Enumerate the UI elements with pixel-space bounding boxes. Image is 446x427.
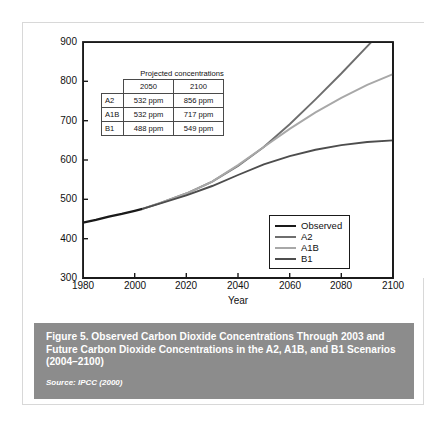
table-row: A2 532 ppm 856 ppm (102, 94, 224, 108)
legend-swatch-a2 (275, 236, 296, 238)
x-axis-title: Year (83, 295, 393, 306)
projected-concentrations-table: Projected concentrations 2050 2100 A2 53… (101, 69, 241, 136)
table-col-header-2100: 2100 (174, 80, 224, 94)
legend-item-a1b: A1B (275, 242, 342, 253)
legend-item-a2: A2 (275, 231, 342, 242)
table-cell-b1-2050: 488 ppm (124, 122, 174, 136)
figure-caption-band: Figure 5. Observed Carbon Dioxide Concen… (34, 323, 414, 399)
legend-swatch-observed (275, 225, 296, 227)
inset-table: 2050 2100 A2 532 ppm 856 ppm A1B 532 ppm… (101, 79, 224, 136)
legend-swatch-b1 (275, 258, 296, 260)
table-row: A1B 532 ppm 717 ppm (102, 108, 224, 122)
figure-source: Source: IPCC (2000) (46, 378, 402, 387)
table-row-label-b1: B1 (102, 122, 124, 136)
figure-caption-title: Figure 5. Observed Carbon Dioxide Concen… (46, 331, 402, 369)
top-mask (23, 23, 425, 42)
plot-canvas (23, 23, 425, 321)
xtick-label-1980: 1980 (60, 280, 106, 291)
legend-label-a2: A2 (301, 231, 313, 242)
xtick-label-2020: 2020 (163, 280, 209, 291)
xtick-label-2000: 2000 (112, 280, 158, 291)
table-header-row: 2050 2100 (102, 80, 224, 94)
figure-card: Global carbon dioxide concentrations (pp… (22, 22, 424, 405)
series-line-observed (83, 209, 142, 223)
legend-label-observed: Observed (301, 220, 342, 231)
table-row-label-a2: A2 (102, 94, 124, 108)
ytick-label-800: 800 (43, 75, 77, 86)
xtick-label-2040: 2040 (215, 280, 261, 291)
figure-root: Global carbon dioxide concentrations (pp… (0, 0, 446, 427)
ytick-label-500: 500 (43, 193, 77, 204)
legend-item-b1: B1 (275, 253, 342, 264)
series-line-b1 (142, 140, 393, 208)
table-cell-a1b-2100: 717 ppm (174, 108, 224, 122)
table-col-header-2050: 2050 (124, 80, 174, 94)
ytick-label-600: 600 (43, 154, 77, 165)
table-row: B1 488 ppm 549 ppm (102, 122, 224, 136)
ytick-label-400: 400 (43, 233, 77, 244)
right-mask (394, 42, 425, 278)
table-row-label-a1b: A1B (102, 108, 124, 122)
legend-label-b1: B1 (301, 253, 313, 264)
table-cell-b1-2100: 549 ppm (174, 122, 224, 136)
xtick-label-2060: 2060 (267, 280, 313, 291)
legend-swatch-a1b (275, 247, 296, 249)
legend-label-a1b: A1B (301, 242, 319, 253)
xtick-label-2080: 2080 (318, 280, 364, 291)
legend-item-observed: Observed (275, 220, 342, 231)
chart-area: Global carbon dioxide concentrations (pp… (23, 23, 425, 321)
ytick-label-900: 900 (43, 36, 77, 47)
chart-legend: Observed A2 A1B B1 (269, 215, 350, 269)
table-cell-a2-2050: 532 ppm (124, 94, 174, 108)
table-cell-a1b-2050: 532 ppm (124, 108, 174, 122)
ytick-label-700: 700 (43, 115, 77, 126)
table-cell-a2-2100: 856 ppm (174, 94, 224, 108)
table-corner-cell (102, 80, 124, 94)
xtick-label-2100: 2100 (370, 280, 416, 291)
inset-table-caption: Projected concentrations (101, 69, 241, 79)
